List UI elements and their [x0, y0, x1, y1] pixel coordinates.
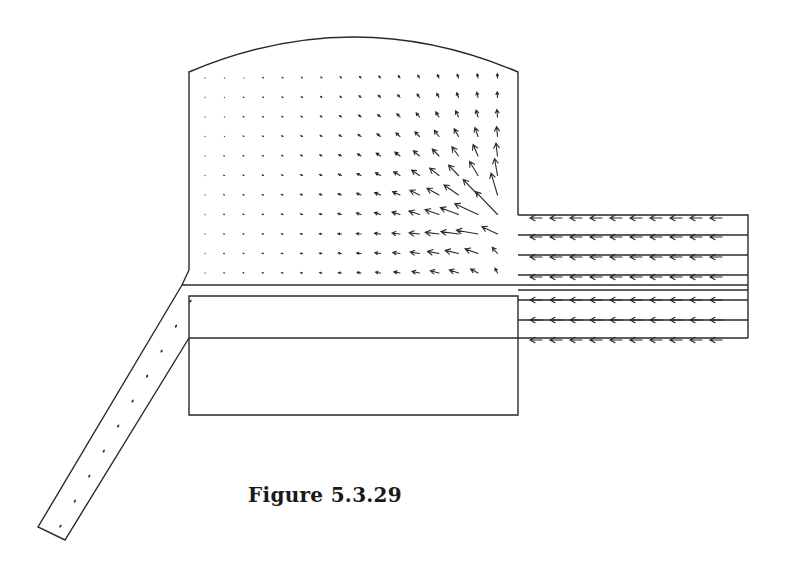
- domain-outline: [38, 37, 748, 540]
- chamber-wall: [189, 37, 518, 270]
- figure-caption: Figure 5.3.29: [248, 483, 402, 507]
- chamber-corner: [182, 270, 189, 285]
- inner-box: [189, 296, 518, 415]
- outlet-pipe: [38, 285, 189, 540]
